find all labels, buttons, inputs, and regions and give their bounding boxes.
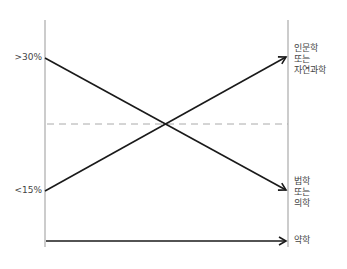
right-label-bottom-line-1: 약학 (294, 235, 310, 246)
diagram-canvas (0, 0, 347, 269)
right-label-humanities-or-science: 인문학 또는 자연과학 (294, 43, 326, 76)
right-label-middle-line-2: 또는 (294, 187, 310, 198)
left-label-low: <15% (2, 185, 42, 196)
right-label-top-line-3: 자연과학 (294, 65, 326, 76)
right-label-middle-line-1: 법학 (294, 176, 310, 187)
right-label-top-line-1: 인문학 (294, 43, 326, 54)
right-label-law-or-medicine: 법학 또는 의학 (294, 176, 310, 209)
right-label-top-line-2: 또는 (294, 54, 326, 65)
left-label-high: >30% (2, 52, 42, 63)
right-label-pharmacy: 약학 (294, 235, 310, 246)
right-label-middle-line-3: 의학 (294, 198, 310, 209)
